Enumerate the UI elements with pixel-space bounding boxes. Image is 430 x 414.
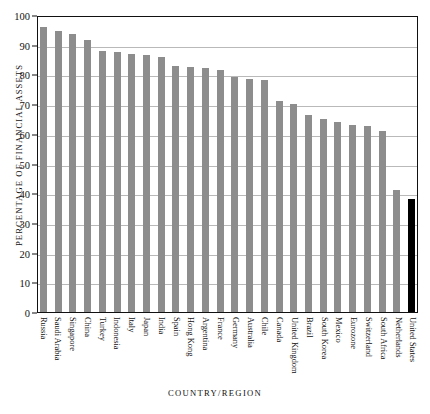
x-tick-label: Chile <box>260 317 268 335</box>
bar <box>393 190 400 312</box>
x-tick: China <box>83 315 90 385</box>
x-tick: United States <box>409 315 416 385</box>
bar <box>408 199 415 312</box>
x-tick: Germany <box>231 315 238 385</box>
x-tick-label: United States <box>408 317 416 362</box>
chart-figure: 0102030405060708090100 PERCENTAGE OF FIN… <box>0 0 430 414</box>
x-tick: Hong Kong <box>187 315 194 385</box>
x-tick-label: Germany <box>231 317 239 348</box>
bar <box>158 57 165 312</box>
x-tick: Japan <box>143 315 150 385</box>
y-tick-label: 0 <box>25 308 30 319</box>
bar <box>172 66 179 313</box>
bar <box>114 52 121 312</box>
x-tick-label: Eurozone <box>349 317 357 349</box>
x-tick: Turkey <box>98 315 105 385</box>
x-tick-label: Turkey <box>97 317 105 341</box>
x-tick-label: Russia <box>38 317 46 339</box>
x-tick: Brazil <box>305 315 312 385</box>
x-tick-label: Spain <box>171 317 179 336</box>
x-tick: Eurozone <box>350 315 357 385</box>
x-tick: Indonesia <box>113 315 120 385</box>
x-tick-label: Japan <box>142 317 150 336</box>
x-tick: Singapore <box>69 315 76 385</box>
x-tick-label: France <box>216 317 224 340</box>
x-tick-label: Italy <box>127 317 135 332</box>
bar <box>349 125 356 312</box>
y-tick-label: 10 <box>20 278 31 289</box>
bar <box>305 115 312 313</box>
bar <box>128 54 135 312</box>
x-tick: Chile <box>261 315 268 385</box>
plot-area <box>37 16 418 313</box>
bar <box>143 55 150 312</box>
x-tick-label: Argentina <box>201 317 209 350</box>
x-tick: Russia <box>39 315 46 385</box>
x-tick-label: Brazil <box>305 317 313 337</box>
x-tick: South Africa <box>379 315 386 385</box>
x-tick: United Kingdom <box>291 315 298 385</box>
x-tick-label: Canada <box>275 317 283 342</box>
bar <box>40 27 47 312</box>
bar <box>246 79 253 312</box>
x-tick: France <box>217 315 224 385</box>
x-tick: Spain <box>172 315 179 385</box>
x-tick: South Korea <box>320 315 327 385</box>
x-tick: Switzerland <box>365 315 372 385</box>
x-tick-label: South Africa <box>379 317 387 360</box>
x-tick-label: Singapore <box>68 317 76 351</box>
x-tick: Netherlands <box>394 315 401 385</box>
cut-off-caption <box>0 0 430 11</box>
x-tick-label: United Kingdom <box>290 317 298 374</box>
x-tick-label: Netherlands <box>393 317 401 357</box>
bar <box>261 80 268 312</box>
x-tick: Saudi Arabia <box>54 315 61 385</box>
x-axis-title: COUNTRY/REGION <box>0 388 430 398</box>
x-tick: Mexico <box>335 315 342 385</box>
y-tick-label: 100 <box>14 11 30 22</box>
x-tick-label: Australia <box>245 317 253 348</box>
x-tick: Canada <box>276 315 283 385</box>
x-tick-label: China <box>83 317 91 337</box>
x-tick-label: Saudi Arabia <box>53 317 61 361</box>
bar <box>187 67 194 312</box>
y-axis-title: PERCENTAGE OF FINANCIAL ASSETS <box>14 40 24 270</box>
bar <box>379 131 386 312</box>
x-tick-label: South Korea <box>319 317 327 359</box>
x-tick-label: Mexico <box>334 317 342 343</box>
bar <box>334 122 341 312</box>
x-tick-label: Switzerland <box>364 317 372 357</box>
bar-series <box>38 17 417 312</box>
bar <box>217 70 224 312</box>
x-tick: Australia <box>246 315 253 385</box>
bar <box>202 68 209 312</box>
bar <box>84 40 91 312</box>
x-tick: India <box>157 315 164 385</box>
bar <box>276 101 283 312</box>
bar <box>231 77 238 312</box>
x-tick: Italy <box>128 315 135 385</box>
bar <box>99 51 106 312</box>
x-tick-label: Indonesia <box>112 317 120 350</box>
x-tick-label: Hong Kong <box>186 317 194 356</box>
bar <box>364 126 371 312</box>
x-axis-ticks: RussiaSaudi ArabiaSingaporeChinaTurkeyIn… <box>37 315 418 385</box>
bar <box>55 31 62 312</box>
x-tick-label: India <box>157 317 165 334</box>
x-tick: Argentina <box>202 315 209 385</box>
bar <box>320 119 327 312</box>
bar <box>290 104 297 312</box>
bar <box>69 34 76 312</box>
